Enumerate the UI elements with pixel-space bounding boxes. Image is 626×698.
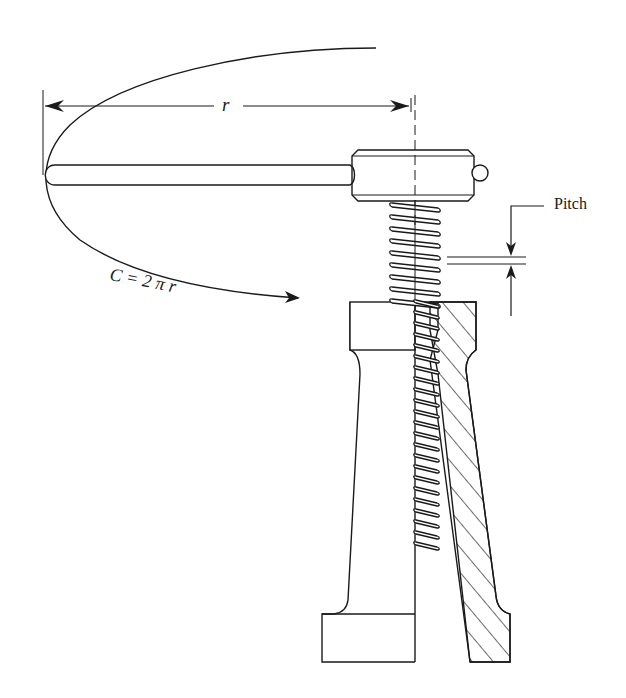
pitch-label: Pitch [554,195,587,213]
screw-jack-diagram [0,0,626,698]
screw-head-collar [352,150,474,201]
handle-bar [45,165,350,185]
handle-knob [472,165,488,181]
pitch-leader [511,206,544,250]
base-top-block [350,302,415,350]
base-body-left [322,302,415,662]
radius-label: r [222,94,229,116]
